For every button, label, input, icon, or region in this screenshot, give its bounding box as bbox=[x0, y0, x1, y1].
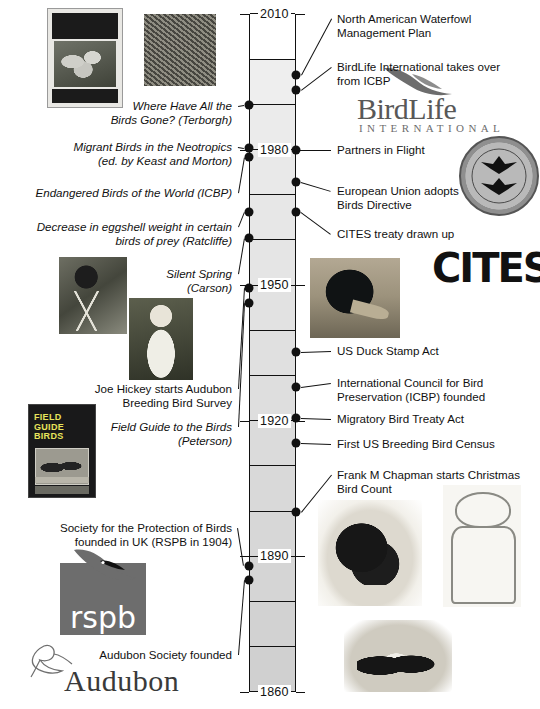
field-guide-band-1 bbox=[35, 477, 89, 483]
photo-bird-nest bbox=[144, 14, 216, 86]
leader-line bbox=[301, 351, 331, 353]
axis-decade-label: 1950 bbox=[258, 278, 291, 292]
axis-tick bbox=[296, 692, 305, 693]
event-dot-right bbox=[292, 178, 301, 187]
axis-tick bbox=[296, 556, 305, 557]
timeline-decade-band bbox=[250, 330, 295, 375]
event-label-right: Partners in Flight bbox=[337, 143, 537, 157]
event-dot-right bbox=[292, 208, 301, 217]
event-label-left: Endangered Birds of the World (ICBP) bbox=[20, 186, 232, 200]
leader-line bbox=[238, 238, 245, 274]
event-label-left: Society for the Protection of Birds foun… bbox=[18, 521, 232, 548]
book-cover-art bbox=[54, 41, 116, 87]
timeline-decade-band bbox=[250, 59, 295, 104]
timeline-decade-band bbox=[250, 465, 295, 510]
event-dot-left bbox=[245, 576, 254, 585]
axis-tick bbox=[296, 285, 305, 286]
rspb-logo-text: rspb bbox=[60, 603, 146, 633]
event-dot-right bbox=[292, 508, 301, 517]
event-label-right: First US Breeding Bird Census bbox=[337, 437, 537, 451]
event-dot-right bbox=[292, 414, 301, 423]
birdlife-logo-subtext: INTERNATIONAL bbox=[359, 122, 504, 134]
photo-duck-head bbox=[310, 258, 400, 338]
leader-line bbox=[301, 67, 332, 91]
event-label-left: Decrease in eggshell weight in certain b… bbox=[20, 220, 232, 247]
event-label-left: Silent Spring (Carson) bbox=[112, 267, 232, 294]
axis-tick bbox=[240, 14, 249, 15]
birdlife-logo-text: BirdLife bbox=[357, 94, 456, 124]
event-label-left: Joe Hickey starts Audubon Breeding Bird … bbox=[66, 382, 232, 409]
timeline-decade-band bbox=[250, 194, 295, 239]
event-label-right: North American Waterfowl Management Plan bbox=[337, 12, 537, 39]
event-dot-right bbox=[292, 71, 301, 80]
axis-decade-label: 1920 bbox=[258, 414, 291, 428]
event-label-left: Audubon Society founded bbox=[80, 648, 232, 662]
illustration-passenger-pigeon bbox=[318, 500, 422, 606]
event-label-right: BirdLife International takes over from I… bbox=[337, 60, 537, 87]
field-guide-band-2 bbox=[35, 486, 89, 494]
illustration-frank-chapman-portrait bbox=[443, 485, 521, 607]
axis-decade-label: 2010 bbox=[258, 7, 291, 21]
event-dot-left bbox=[245, 208, 254, 217]
leader-line bbox=[301, 150, 331, 151]
leader-line bbox=[301, 418, 331, 420]
event-dot-left bbox=[245, 144, 254, 153]
event-dot-left bbox=[245, 234, 254, 243]
field-guide-title: FIELDGUIDEBIRDS bbox=[34, 413, 64, 442]
event-dot-right bbox=[292, 439, 301, 448]
event-label-right: Migratory Bird Treaty Act bbox=[337, 412, 537, 426]
event-label-right: US Duck Stamp Act bbox=[337, 344, 537, 358]
event-label-left: Migrant Birds in the Neotropics (ed. by … bbox=[24, 140, 232, 167]
timeline-decade-band bbox=[250, 601, 295, 646]
event-label-right: Frank M Chapman starts Christmas Bird Co… bbox=[337, 468, 537, 495]
book-cover-field-guide-to-the-birds: FIELDGUIDEBIRDS bbox=[28, 404, 96, 498]
event-dot-left bbox=[245, 284, 254, 293]
event-label-right: CITES treaty drawn up bbox=[337, 227, 537, 241]
event-label-right: International Council for Bird Preservat… bbox=[337, 376, 537, 403]
event-dot-right bbox=[292, 348, 301, 357]
event-dot-right bbox=[292, 86, 301, 95]
event-dot-left bbox=[245, 153, 254, 162]
axis-tick bbox=[296, 14, 305, 15]
event-dot-left bbox=[245, 299, 254, 308]
photo-joe-hickey bbox=[129, 298, 193, 380]
book-title-band bbox=[52, 13, 118, 39]
leader-line bbox=[237, 528, 244, 566]
axis-tick bbox=[240, 421, 249, 422]
avocet-icon bbox=[70, 548, 140, 584]
axis-decade-label: 1980 bbox=[258, 143, 291, 157]
leader-line bbox=[301, 19, 332, 75]
leader-line bbox=[238, 212, 245, 227]
leader-line bbox=[238, 580, 245, 655]
event-dot-right bbox=[292, 146, 301, 155]
leader-line bbox=[300, 212, 331, 235]
event-label-left: Field Guide to the Birds (Peterson) bbox=[66, 420, 232, 447]
book-cover-where-have-all-the-birds-gone bbox=[47, 8, 123, 108]
audubon-logo-text: Audubon bbox=[64, 666, 179, 696]
leader-line bbox=[238, 105, 244, 107]
leader-line bbox=[238, 157, 245, 193]
timeline-axis-column bbox=[249, 14, 296, 692]
event-label-right: European Union adopts Birds Directive bbox=[337, 184, 537, 211]
leader-line bbox=[301, 383, 331, 388]
event-dot-right bbox=[292, 383, 301, 392]
event-dot-left bbox=[245, 562, 254, 571]
illustration-puffins bbox=[344, 620, 452, 692]
timeline-infographic: FIELDGUIDEBIRDS rspb Audubon BirdLife IN… bbox=[0, 0, 540, 709]
axis-decade-label: 1890 bbox=[258, 549, 291, 563]
axis-decade-label: 1860 bbox=[258, 685, 291, 699]
axis-tick bbox=[240, 692, 249, 693]
event-dot-left bbox=[245, 101, 254, 110]
cites-logo-text: CITES bbox=[432, 247, 528, 295]
leader-line bbox=[301, 443, 331, 445]
leader-line bbox=[301, 182, 331, 192]
event-label-left: Where Have All the Birds Gone? (Terborgh… bbox=[72, 99, 232, 126]
